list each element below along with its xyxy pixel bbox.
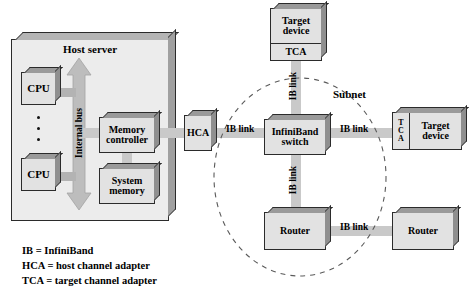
- ellipsis-dot: [37, 138, 40, 141]
- router-left-box: Router: [264, 212, 326, 250]
- memory-controller-box: Memory controller: [99, 117, 155, 153]
- cpu-bottom-label: CPU: [27, 169, 50, 181]
- target-device-right-tca-cell: T C A: [393, 113, 409, 149]
- switch-to-right-target-link-label: IB link: [340, 124, 368, 134]
- cpu-top-label: CPU: [27, 83, 50, 95]
- router-right-box: Router: [392, 212, 454, 250]
- router-right-label: Router: [408, 226, 438, 237]
- cpu-ellipsis: [36, 116, 41, 141]
- infiniband-architecture-diagram: Host server Internal bus CPU CPU Memory …: [0, 0, 475, 292]
- target-device-top-tca-label: TCA: [285, 47, 306, 58]
- target-device-top-box: Target device TCA: [270, 8, 322, 61]
- system-memory-label: System memory: [109, 176, 145, 197]
- infiniband-switch-box: InfiniBand switch: [264, 119, 326, 155]
- host-server-label: Host server: [11, 43, 169, 55]
- legend-line-hca: HCA = host channel adapter: [22, 258, 157, 273]
- hca-to-switch-link-label: IB link: [226, 124, 254, 134]
- hca-label: HCA: [187, 128, 209, 139]
- ellipsis-dot: [37, 127, 40, 130]
- legend: IB = InfiniBand HCA = host channel adapt…: [22, 243, 157, 289]
- legend-line-tca: TCA = target channel adapter: [22, 273, 157, 288]
- internal-bus-label: Internal bus: [74, 108, 84, 158]
- ellipsis-dot: [37, 116, 40, 119]
- switch-to-top-target-link-label: IB link: [288, 72, 298, 100]
- legend-line-ib: IB = InfiniBand: [22, 243, 157, 258]
- switch-to-router-link-label: IB link: [288, 166, 298, 194]
- cpu-top-box: CPU: [21, 72, 56, 105]
- target-device-top-name: Target device: [271, 9, 321, 43]
- subnet-label: Subnet: [333, 88, 366, 100]
- cpu-bottom-box: CPU: [21, 158, 56, 191]
- target-device-right-box: T C A Target device: [392, 112, 462, 150]
- router-left-label: Router: [280, 226, 310, 237]
- hca-box: HCA: [184, 115, 212, 151]
- target-device-top-tca-cell: TCA: [271, 44, 321, 60]
- system-memory-box: System memory: [99, 168, 155, 204]
- router-to-router-link-label: IB link: [340, 222, 368, 232]
- memory-controller-label: Memory controller: [106, 125, 148, 146]
- infiniband-switch-label: InfiniBand switch: [272, 127, 319, 148]
- target-device-right-name: Target device: [410, 113, 461, 149]
